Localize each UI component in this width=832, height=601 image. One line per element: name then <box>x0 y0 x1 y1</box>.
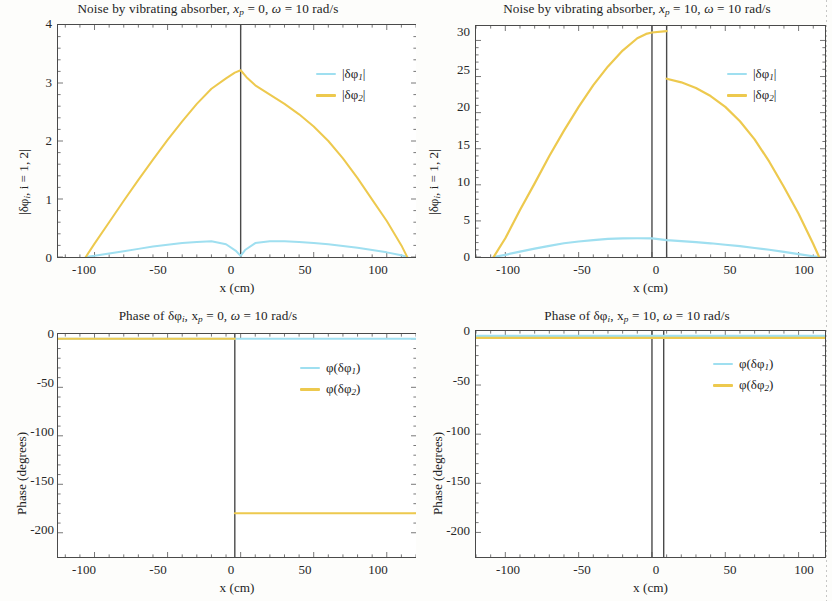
plot-frame-phase-xp0 <box>57 333 416 558</box>
xtick-label: -50 <box>573 262 590 278</box>
panel-title-phase-xp0: Phase of δφi, xp = 0, ω = 10 rad/s <box>0 308 416 324</box>
plot-frame-amplitude-xp0 <box>57 24 416 258</box>
scan-edge-artifact <box>826 0 827 601</box>
ytick-label: -200 <box>16 522 54 538</box>
xtick-label: -50 <box>573 562 590 578</box>
legend-label-series-1: φ(δφ1) <box>326 360 360 376</box>
x-axis-label: x (cm) <box>475 580 826 596</box>
xtick-label: 100 <box>368 262 388 278</box>
xtick-label: 0 <box>228 562 235 578</box>
xtick-label: 50 <box>724 262 737 278</box>
xtick-label: 100 <box>368 562 388 578</box>
legend-label-series-2: φ(δφ2) <box>739 377 773 393</box>
ytick-label: 5 <box>444 212 470 228</box>
legend-swatch-series-1 <box>727 73 747 75</box>
xtick-label: -50 <box>149 562 166 578</box>
ytick-label: 25 <box>444 62 470 78</box>
panel-title-amplitude-xp10: Noise by vibrating absorber, xp = 10, ω … <box>446 1 828 17</box>
legend-item[interactable]: |δφ2| <box>727 87 776 103</box>
ytick-label: -50 <box>436 373 470 389</box>
y-axis-label: Phase (degrees) <box>14 432 30 515</box>
figure-panel-grid: Noise by vibrating absorber, xp = 0, ω =… <box>0 0 832 601</box>
xtick-label: 100 <box>794 262 814 278</box>
ytick-label: 2 <box>34 133 52 149</box>
plot-area-amplitude-xp0 <box>58 25 416 257</box>
ytick-label: 15 <box>444 137 470 153</box>
legend-swatch-series-1 <box>316 73 336 75</box>
x-axis-label: x (cm) <box>475 280 826 296</box>
ytick-label: 3 <box>34 75 52 91</box>
ytick-label: -200 <box>432 523 470 539</box>
ytick-label: 4 <box>34 16 52 32</box>
legend-item[interactable]: φ(δφ1) <box>713 356 773 372</box>
panel-title-phase-xp10: Phase of δφi, xp = 10, ω = 10 rad/s <box>446 308 828 324</box>
legend-label-series-2: φ(δφ2) <box>326 381 360 397</box>
legend-item[interactable]: φ(δφ2) <box>300 381 360 397</box>
legend-swatch-series-2 <box>316 94 336 96</box>
xtick-label: 100 <box>794 562 814 578</box>
xtick-label: -100 <box>496 562 520 578</box>
ytick-label: -50 <box>20 375 54 391</box>
legend-item[interactable]: |δφ2| <box>316 87 365 103</box>
legend-amplitude-xp10: |δφ1| |δφ2| <box>727 66 776 104</box>
panel-amplitude-xp0: Noise by vibrating absorber, xp = 0, ω =… <box>0 0 416 300</box>
legend-phase-xp0: φ(δφ1) φ(δφ2) <box>300 360 360 398</box>
legend-swatch-series-2 <box>713 384 733 386</box>
legend-item[interactable]: |δφ1| <box>316 66 365 82</box>
xtick-label: -50 <box>149 262 166 278</box>
legend-item[interactable]: |δφ1| <box>727 66 776 82</box>
ytick-label: 30 <box>444 24 470 40</box>
panel-phase-xp0: Phase of δφi, xp = 0, ω = 10 rad/s 0 -50… <box>0 300 416 601</box>
x-axis-label: x (cm) <box>57 580 416 596</box>
ytick-label: 0 <box>444 323 470 339</box>
x-axis-label: x (cm) <box>57 280 416 296</box>
plot-area-amplitude-xp10 <box>476 26 825 257</box>
legend-swatch-series-2 <box>300 388 320 390</box>
legend-item[interactable]: φ(δφ1) <box>300 360 360 376</box>
plot-frame-amplitude-xp10 <box>475 25 826 258</box>
xtick-label: 50 <box>299 262 312 278</box>
xtick-label: 0 <box>653 262 660 278</box>
ytick-label: 10 <box>444 174 470 190</box>
xtick-label: -100 <box>496 262 520 278</box>
ytick-label: 0 <box>34 250 52 266</box>
xtick-label: 0 <box>653 562 660 578</box>
panel-amplitude-xp10: Noise by vibrating absorber, xp = 10, ω … <box>416 0 832 300</box>
y-axis-label: Phase (degrees) <box>430 432 446 515</box>
y-axis-label: |δφi, i = 1, 2| <box>426 149 442 215</box>
legend-label-series-1: φ(δφ1) <box>739 356 773 372</box>
xtick-label: 50 <box>299 562 312 578</box>
legend-label-series-2: |δφ2| <box>753 87 776 103</box>
panel-phase-xp10: Phase of δφi, xp = 10, ω = 10 rad/s 0 -5… <box>416 300 832 601</box>
ytick-label: 0 <box>444 249 470 265</box>
ytick-label: 20 <box>444 99 470 115</box>
xtick-label: -100 <box>72 262 96 278</box>
plot-area-phase-xp0 <box>58 334 416 557</box>
ytick-label: 1 <box>34 192 52 208</box>
xtick-label: 50 <box>724 562 737 578</box>
panel-title-amplitude-xp0: Noise by vibrating absorber, xp = 0, ω =… <box>0 1 416 17</box>
legend-swatch-series-1 <box>713 363 733 365</box>
xtick-label: 0 <box>228 262 235 278</box>
legend-label-series-2: |δφ2| <box>342 87 365 103</box>
ytick-label: 0 <box>28 326 54 342</box>
legend-swatch-series-2 <box>727 94 747 96</box>
legend-label-series-1: |δφ1| <box>342 66 365 82</box>
legend-amplitude-xp0: |δφ1| |δφ2| <box>316 66 365 104</box>
legend-swatch-series-1 <box>300 367 320 369</box>
xtick-label: -100 <box>72 562 96 578</box>
legend-label-series-1: |δφ1| <box>753 66 776 82</box>
legend-item[interactable]: φ(δφ2) <box>713 377 773 393</box>
y-axis-label: |δφi, i = 1, 2| <box>16 149 32 215</box>
legend-phase-xp10: φ(δφ1) φ(δφ2) <box>713 356 773 394</box>
